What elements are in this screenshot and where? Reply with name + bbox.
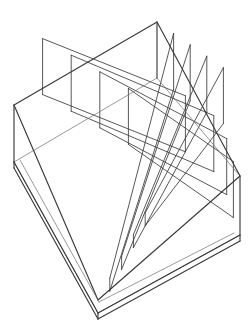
figure-root: · · ·· · · ·· · · ·· · bbox=[0, 0, 252, 322]
tray-wireframe-illustration bbox=[0, 0, 252, 322]
